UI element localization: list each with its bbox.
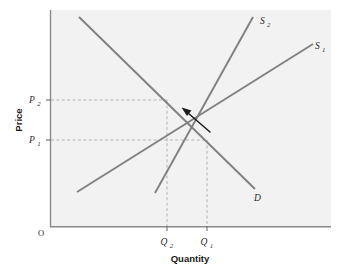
- curve-label-d-base: D: [253, 193, 261, 203]
- x-tick-label-q2-subscript: 2: [170, 242, 174, 249]
- x-tick-label-q2-base: Q: [161, 237, 168, 247]
- y-tick-label-p2-base: P: [28, 95, 35, 105]
- chart-canvas: Price Quantity O P 2 P 1 Q 2 Q 1 S 2 S: [0, 0, 337, 270]
- curve-label-s1-subscript: 1: [322, 46, 325, 53]
- x-axis-title: Quantity: [171, 253, 210, 264]
- y-tick-label-p2: P 2: [28, 95, 41, 107]
- supply-demand-figure: Price Quantity O P 2 P 1 Q 2 Q 1 S 2 S: [0, 0, 337, 270]
- y-tick-label-p1: P 1: [28, 135, 41, 147]
- curve-label-s2-subscript: 2: [267, 21, 271, 28]
- x-tick-label-q1-subscript: 1: [210, 242, 213, 249]
- curve-label-d: D: [253, 193, 261, 203]
- y-tick-label-p1-subscript: 1: [37, 140, 40, 147]
- curve-label-s2-base: S: [260, 16, 265, 26]
- x-tick-label-q2: Q 2: [161, 237, 174, 249]
- y-axis-title: Price: [13, 108, 24, 131]
- curve-label-s1-base: S: [315, 41, 320, 51]
- origin-label: O: [38, 228, 44, 238]
- plot-background: [50, 10, 331, 227]
- x-tick-label-q1: Q 1: [201, 237, 214, 249]
- y-tick-label-p1-base: P: [28, 135, 35, 145]
- y-tick-label-p2-subscript: 2: [37, 100, 41, 107]
- x-tick-label-q1-base: Q: [201, 237, 208, 247]
